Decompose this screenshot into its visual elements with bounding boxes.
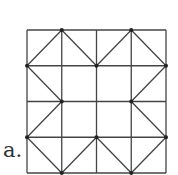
quilt-pattern-figure: a. xyxy=(0,0,178,175)
diagonal-line xyxy=(27,66,62,102)
vertex-dot xyxy=(129,28,133,32)
vertex-dot xyxy=(25,64,29,68)
vertex-dot xyxy=(60,171,64,175)
diagonal-line xyxy=(62,30,97,66)
diagonal-line xyxy=(27,137,62,173)
vertex-dot xyxy=(164,64,168,68)
vertex-dot xyxy=(60,28,64,32)
quilt-grid-diagram xyxy=(0,0,178,175)
vertex-dot xyxy=(60,100,64,104)
diagonal-line xyxy=(27,30,62,66)
diagonal-line xyxy=(97,30,132,66)
vertex-dot xyxy=(95,135,99,139)
diagonal-line xyxy=(131,30,166,66)
vertex-dot xyxy=(129,100,133,104)
vertex-dot xyxy=(164,135,168,139)
diagonal-line xyxy=(62,137,97,173)
diagonal-line xyxy=(131,66,166,102)
figure-label: a. xyxy=(3,140,22,161)
vertex-dot xyxy=(25,135,29,139)
diagonal-line xyxy=(27,102,62,138)
vertex-dot xyxy=(95,64,99,68)
vertex-dot xyxy=(129,171,133,175)
diagonal-line xyxy=(131,137,166,173)
diagonal-line xyxy=(97,137,132,173)
diagonal-line xyxy=(131,102,166,138)
